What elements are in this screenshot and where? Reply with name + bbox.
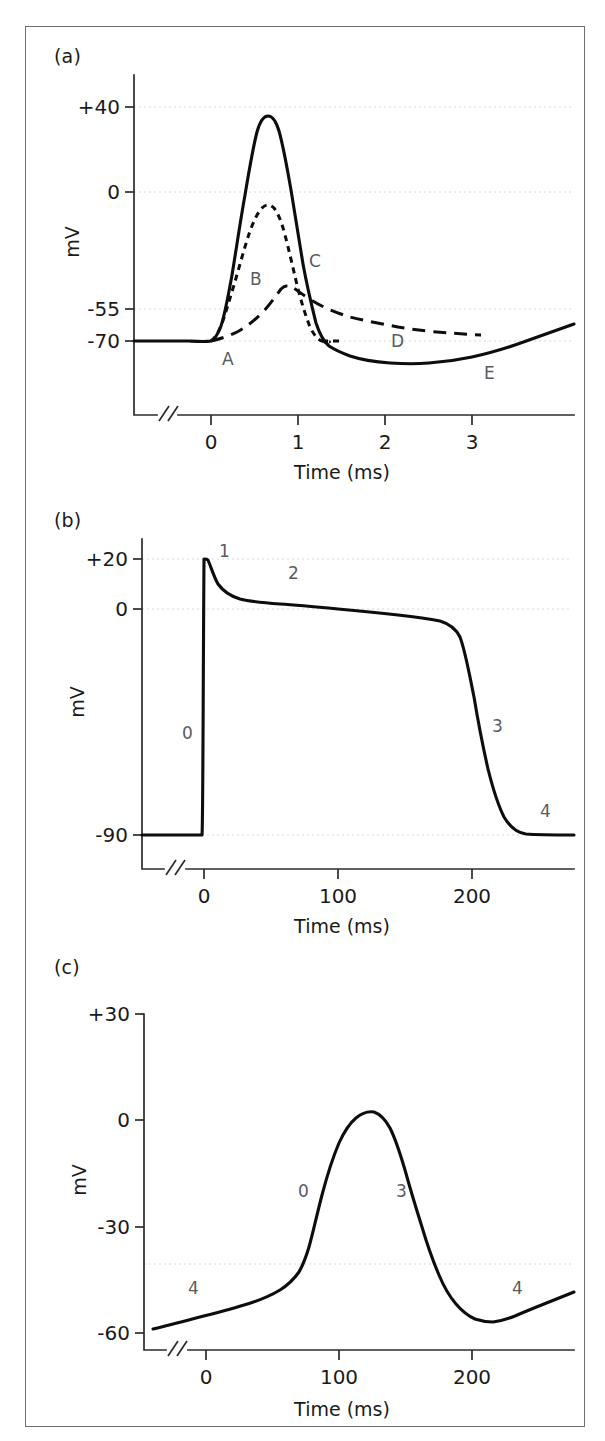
panel-b: (b) +20 0 -90 [26, 497, 586, 942]
panel-c-y-axis-title: mV [68, 1164, 90, 1196]
panel-a-y-axis [134, 75, 157, 415]
panel-a-trace-solid [134, 116, 574, 364]
panel-c-x-ticks [206, 1350, 472, 1360]
panel-c-axis-break-icon [168, 1341, 187, 1356]
panel-b-gridlines [142, 559, 571, 835]
panel-c-xtick-1: 100 [320, 1365, 358, 1389]
panel-b-y-axis-title: mV [66, 686, 88, 718]
panel-a-ytick-2: -55 [87, 297, 120, 321]
panel-c-xtick-2: 200 [453, 1365, 491, 1389]
panel-a-xtick-1: 1 [292, 430, 305, 454]
panel-a-ytick-1: 0 [107, 180, 120, 204]
panel-b-annotation-4: 4 [540, 801, 551, 821]
panel-a-plot: +40 0 -55 -70 0 1 2 3 Time (ms) mV [26, 27, 586, 497]
panel-a-annotation-E: E [484, 363, 495, 383]
panel-c-ytick-0: +30 [88, 1002, 130, 1026]
panel-c-y-axis [144, 1014, 166, 1350]
panel-a-annotation-C: C [309, 251, 321, 271]
panel-b-annotation-3: 3 [492, 716, 503, 736]
panel-a-annotation-D: D [391, 331, 404, 351]
panel-b-plot: +20 0 -90 0 100 200 Time (ms) mV 0 1 2 3… [26, 497, 586, 942]
panel-b-ytick-2: -90 [95, 823, 128, 847]
figure-frame: (a) +40 0 [25, 26, 585, 1427]
panel-b-y-axis [142, 539, 164, 869]
panel-a-ytick-0: +40 [78, 95, 120, 119]
panel-a: (a) +40 0 [26, 27, 586, 497]
panel-b-annotation-2: 2 [288, 563, 299, 583]
panel-b-trace [142, 559, 574, 835]
panel-c: (c) +30 0 -30 -60 [26, 942, 586, 1428]
panel-b-x-axis-title: Time (ms) [293, 915, 390, 937]
panel-b-y-ticks [133, 559, 142, 835]
panel-c-annotation-4-left: 4 [188, 1278, 199, 1298]
panel-c-annotation-3: 3 [396, 1181, 407, 1201]
panel-b-annotation-1: 1 [219, 541, 230, 561]
panel-a-trace-dotted [211, 205, 329, 342]
panel-c-ytick-3: -60 [97, 1321, 130, 1345]
panel-a-trace-dashed [211, 286, 481, 341]
panel-b-xtick-2: 200 [453, 884, 491, 908]
panel-c-plot: +30 0 -30 -60 0 100 200 Time (ms) mV 0 3… [26, 942, 586, 1428]
panel-b-ytick-1: 0 [115, 597, 128, 621]
panel-a-x-axis-title: Time (ms) [293, 461, 390, 483]
panel-c-ytick-1: 0 [117, 1108, 130, 1132]
panel-b-ytick-0: +20 [86, 547, 128, 571]
panel-c-annotation-0: 0 [298, 1181, 309, 1201]
panel-a-y-ticks [125, 107, 134, 341]
panel-c-y-ticks [135, 1014, 144, 1333]
panel-a-annotation-B: B [250, 269, 262, 289]
panel-c-xtick-0: 0 [200, 1365, 213, 1389]
panel-a-gridlines [134, 107, 571, 341]
panel-b-annotation-0: 0 [182, 723, 193, 743]
panel-b-axis-break-icon [166, 860, 185, 875]
panel-b-xtick-1: 100 [319, 884, 357, 908]
panel-b-x-ticks [204, 869, 472, 879]
panel-a-x-ticks [211, 415, 472, 425]
panel-a-axis-break-icon [159, 406, 178, 421]
panel-c-annotation-4-right: 4 [512, 1278, 523, 1298]
panel-a-y-axis-title: mV [61, 226, 83, 258]
panel-a-xtick-3: 3 [466, 430, 479, 454]
panel-c-x-axis-title: Time (ms) [293, 1398, 390, 1420]
panel-b-xtick-0: 0 [198, 884, 211, 908]
panel-c-trace [153, 1112, 574, 1329]
panel-a-xtick-0: 0 [205, 430, 218, 454]
panel-a-ytick-3: -70 [87, 329, 120, 353]
panel-c-ytick-2: -30 [97, 1215, 130, 1239]
panel-a-annotation-A: A [222, 349, 234, 369]
panel-a-xtick-2: 2 [379, 430, 392, 454]
